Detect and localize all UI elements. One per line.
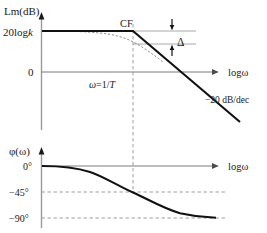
phase-tick-0: 0° — [23, 161, 32, 172]
magnitude-actual-curve — [60, 31, 163, 62]
magnitude-y-axis-label: Lm(dB) — [4, 5, 40, 18]
slope-label: −20 dB/dec — [205, 95, 249, 105]
corner-frequency-value-label: ω=1/T — [89, 79, 116, 90]
magnitude-zero-tick-label: 0 — [28, 66, 34, 78]
magnitude-gain-label: 20logk — [3, 26, 34, 38]
magnitude-y-axis-arrow-icon — [39, 12, 45, 20]
magnitude-plot-group: Lm(dB) 20logk 0 CF Δ ω=1/T −20 dB/dec lo… — [3, 5, 249, 192]
phase-tick-minus45: −45° — [9, 187, 29, 198]
phase-plot-group: φ(ω) 0° −45° −90° logω — [9, 145, 248, 228]
bode-figure-svg: Lm(dB) 20logk 0 CF Δ ω=1/T −20 dB/dec lo… — [0, 0, 267, 233]
magnitude-asymptote-curve — [42, 31, 240, 122]
phase-tick-minus90: −90° — [9, 213, 29, 224]
phase-y-axis-label: φ(ω) — [9, 145, 30, 158]
delta-label: Δ — [177, 36, 184, 48]
bode-figure-container: Lm(dB) 20logk 0 CF Δ ω=1/T −20 dB/dec lo… — [0, 0, 267, 233]
phase-y-axis-arrow-icon — [39, 147, 45, 155]
magnitude-x-axis-label: logω — [228, 67, 248, 78]
phase-x-axis-label: logω — [228, 161, 248, 172]
corner-frequency-label: CF — [120, 18, 133, 29]
